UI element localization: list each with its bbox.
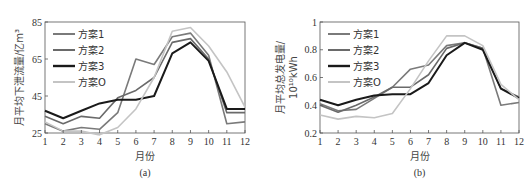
legend: 方案1方案2方案3方案O (328, 28, 381, 88)
x-tick-label: 5 (115, 136, 120, 147)
x-tick-label: 1 (43, 136, 48, 147)
x-tick-label: 2 (61, 136, 66, 147)
y-tick-label: 45 (32, 91, 42, 102)
legend-label: 方案2 (353, 44, 379, 56)
x-tick-label: 12 (240, 136, 250, 147)
figure-caption: (a) (139, 167, 150, 179)
y-tick-label: 85 (32, 17, 42, 28)
x-tick-label: 1 (318, 136, 323, 147)
y-tick-label: 0.8 (305, 44, 318, 55)
x-tick-label: 9 (188, 136, 193, 147)
x-tick-label: 11 (222, 136, 232, 147)
y-tick-label: 1 (312, 17, 317, 28)
x-tick-label: 10 (204, 136, 214, 147)
y-tick-label: 25 (32, 128, 42, 139)
x-tick-label: 4 (372, 136, 377, 147)
x-tick-label: 4 (97, 136, 102, 147)
y-tick-label: 0.2 (305, 128, 318, 139)
legend-label: 方案3 (353, 60, 379, 72)
x-tick-label: 8 (444, 136, 449, 147)
y-axis-label: 月平均下泄流量/亿m³ (13, 29, 25, 126)
x-tick-label: 2 (336, 136, 341, 147)
legend-label: 方案O (78, 76, 106, 88)
x-tick-label: 8 (170, 136, 175, 147)
x-axis-label: 月份 (135, 151, 155, 162)
svg-text:10¹⁰kWh: 10¹⁰kWh (288, 56, 299, 99)
figure: 12345678910111225456585月份(a)月平均下泄流量/亿m³方… (0, 0, 532, 188)
x-axis-label: 月份 (410, 151, 430, 162)
y-tick-label: 0.4 (305, 100, 318, 111)
legend-label: 方案O (353, 76, 381, 88)
chart-b-monthly-generation: 1234567891011120.20.40.60.81月份(b)月平均总发电量… (266, 0, 532, 188)
plot-frame (320, 22, 519, 133)
x-tick-label: 5 (390, 136, 395, 147)
x-tick-label: 9 (462, 136, 467, 147)
x-tick-label: 11 (496, 136, 506, 147)
y-tick-label: 0.6 (305, 72, 318, 83)
legend-label: 方案1 (353, 28, 379, 40)
svg-text:月平均下泄流量/亿m³: 月平均下泄流量/亿m³ (13, 29, 25, 126)
x-tick-label: 3 (354, 136, 359, 147)
x-tick-label: 3 (79, 136, 84, 147)
chart-a-monthly-discharge: 12345678910111225456585月份(a)月平均下泄流量/亿m³方… (0, 0, 266, 188)
x-tick-label: 10 (478, 136, 488, 147)
series-line-4 (320, 36, 519, 119)
x-tick-label: 7 (426, 136, 431, 147)
x-tick-label: 7 (152, 136, 157, 147)
legend-label: 方案3 (78, 60, 104, 72)
x-tick-label: 12 (514, 136, 524, 147)
x-tick-label: 6 (133, 136, 138, 147)
figure-caption: (b) (414, 167, 426, 179)
legend: 方案1方案2方案3方案O (53, 28, 106, 88)
legend-label: 方案1 (78, 28, 104, 40)
svg-text:月平均总发电量/: 月平均总发电量/ (274, 40, 286, 114)
y-tick-label: 65 (32, 54, 42, 65)
legend-label: 方案2 (78, 44, 104, 56)
y-axis-label: 月平均总发电量/10¹⁰kWh (274, 40, 299, 114)
x-tick-label: 6 (408, 136, 413, 147)
